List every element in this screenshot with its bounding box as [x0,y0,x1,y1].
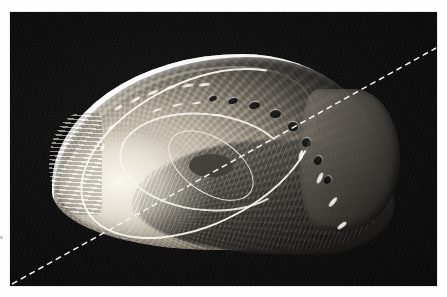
left-margin-text-fragment: s [0,234,8,241]
photo-vignette [10,12,437,286]
abalone-shell-photograph [10,12,437,286]
page-canvas: s [0,0,447,297]
